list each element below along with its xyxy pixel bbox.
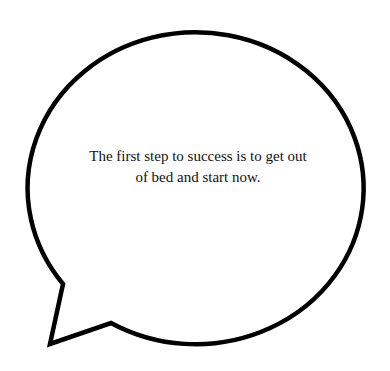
speech-text-line-1: The first step to success is to get out (60, 146, 336, 167)
speech-bubble-outline (28, 32, 364, 344)
speech-bubble-canvas: The first step to success is to get out … (0, 0, 390, 371)
speech-text-line-2: of bed and start now. (60, 167, 336, 188)
speech-bubble-text: The first step to success is to get out … (60, 146, 336, 188)
